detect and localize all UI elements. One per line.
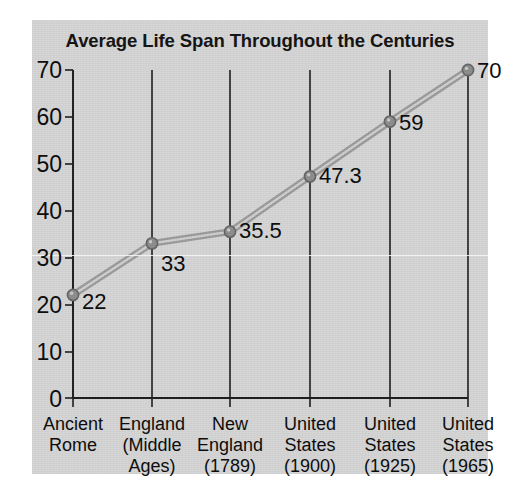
chart-panel: Average Life Span Throughout the Centuri…: [32, 20, 488, 474]
point-label-1: 33: [161, 253, 185, 275]
x-category-label-new-england-1789: New England (1789): [187, 414, 273, 477]
x-category-label-england-middle-ages: England (Middle Ages): [109, 414, 195, 477]
y-tick-label-10: 10: [20, 341, 62, 364]
y-axis: [65, 70, 73, 398]
y-tick-label-70: 70: [20, 59, 62, 82]
data-point-highlight-2: [227, 228, 230, 231]
x-category-label-united-states-1965: United States (1965): [425, 414, 511, 477]
point-label-5: 70: [477, 60, 501, 82]
data-point-marker-2: [224, 226, 235, 237]
x-category-label-united-states-1900: United States (1900): [267, 414, 353, 477]
y-tick-label-30: 30: [20, 247, 62, 270]
chart-plot-area: [32, 20, 488, 474]
data-point-highlight-4: [387, 118, 390, 121]
data-point-markers: [67, 64, 473, 300]
y-tick-label-50: 50: [20, 153, 62, 176]
x-category-label-ancient-rome: Ancient Rome: [30, 414, 116, 456]
data-series-line: [73, 70, 468, 295]
data-point-highlight-3: [307, 173, 310, 176]
data-point-marker-1: [146, 238, 157, 249]
y-tick-label-0: 0: [20, 388, 62, 411]
data-point-highlight-1: [149, 240, 152, 243]
data-point-highlight-5: [465, 67, 468, 70]
data-point-marker-5: [462, 64, 473, 75]
point-label-0: 22: [82, 291, 106, 313]
y-tick-label-40: 40: [20, 200, 62, 223]
x-axis: [73, 398, 468, 407]
data-point-marker-4: [384, 116, 395, 127]
point-label-3: 47.3: [319, 165, 362, 187]
point-label-2: 35.5: [239, 220, 282, 242]
y-tick-label-60: 60: [20, 106, 62, 129]
x-category-label-united-states-1925: United States (1925): [347, 414, 433, 477]
data-point-marker-0: [67, 289, 78, 300]
data-point-marker-3: [304, 171, 315, 182]
y-tick-label-20: 20: [20, 294, 62, 317]
point-label-4: 59: [399, 112, 423, 134]
data-point-highlight-0: [70, 292, 73, 295]
